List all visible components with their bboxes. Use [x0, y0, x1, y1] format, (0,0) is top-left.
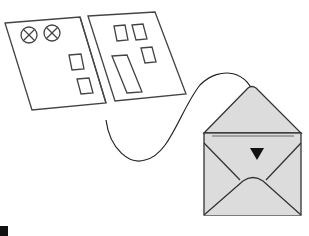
open-envelope: [204, 87, 301, 216]
fan-icon-2: [44, 25, 60, 41]
window: [114, 25, 128, 41]
window: [69, 54, 84, 70]
folder: [5, 12, 186, 110]
diagram-canvas: [0, 0, 309, 236]
fan-icon-1: [21, 27, 37, 43]
envelope-flap: [204, 87, 301, 134]
corner-mark: [0, 226, 8, 236]
